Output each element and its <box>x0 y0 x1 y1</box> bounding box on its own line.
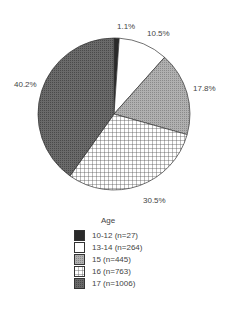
legend-label: 16 (n=763) <box>92 267 131 276</box>
legend-title: Age <box>101 216 115 225</box>
slice-label-10-12: 1.1% <box>117 22 135 31</box>
legend-swatch-grid <box>74 266 85 277</box>
pie-slices <box>38 38 190 190</box>
legend-label: 15 (n=445) <box>92 255 131 264</box>
legend-label: 17 (n=1006) <box>92 279 135 288</box>
slice-label-17: 40.2% <box>14 80 37 89</box>
slice-label-13-14: 10.5% <box>147 29 170 38</box>
slice-label-15: 17.8% <box>193 84 216 93</box>
slice-label-16: 30.5% <box>143 196 166 205</box>
legend-swatch-light-gray <box>74 254 85 265</box>
legend-label: 13-14 (n=264) <box>92 243 142 252</box>
legend-swatch-white <box>74 242 85 253</box>
legend-swatch-dark-gray <box>74 278 85 289</box>
legend-label: 10-12 (n=27) <box>92 231 138 240</box>
legend-swatch-dark <box>74 230 85 241</box>
